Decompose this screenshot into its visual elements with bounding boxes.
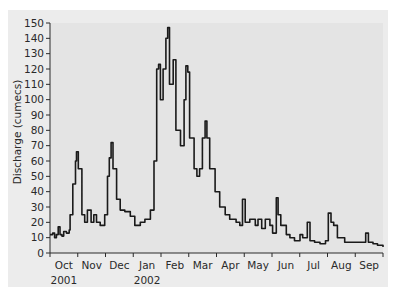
y-tick-label: 0 — [37, 247, 44, 259]
x-tick-label: Feb — [166, 259, 185, 271]
y-tick-label: 10 — [31, 231, 44, 243]
y-tick-label: 150 — [24, 17, 44, 29]
x-tick-label: Oct — [55, 259, 73, 271]
x-tick-label: Apr — [221, 259, 240, 271]
y-tick-label: 60 — [31, 155, 44, 167]
discharge-line — [50, 28, 383, 247]
x-tick-label: Nov — [81, 259, 102, 271]
x-tick-label: Mar — [193, 259, 213, 271]
y-tick-label: 20 — [31, 216, 44, 228]
x-tick-label: Sep — [359, 259, 379, 271]
x-tick-label: May — [247, 259, 269, 271]
x-tick-label: Jul — [306, 259, 320, 271]
y-tick-label: 50 — [31, 170, 44, 182]
y-tick-label: 100 — [24, 93, 44, 105]
x-tick-label: Jun — [277, 259, 294, 271]
y-tick-label: 80 — [31, 124, 44, 136]
y-tick-label: 30 — [31, 201, 44, 213]
y-tick-label: 130 — [24, 47, 44, 59]
y-tick-label: 140 — [24, 32, 44, 44]
y-tick-label: 120 — [24, 63, 44, 75]
x-tick-label: Jan — [138, 259, 155, 271]
y-tick-label: 110 — [24, 78, 44, 90]
discharge-chart: 0102030405060708090100110120130140150Oct… — [0, 0, 401, 298]
y-tick-label: 40 — [31, 185, 44, 197]
year-label: 2001 — [51, 274, 78, 286]
x-tick-label: Dec — [109, 259, 130, 271]
x-tick-label: Aug — [331, 259, 352, 271]
y-tick-label: 70 — [31, 139, 44, 151]
year-label: 2002 — [134, 274, 161, 286]
y-tick-label: 90 — [31, 109, 44, 121]
